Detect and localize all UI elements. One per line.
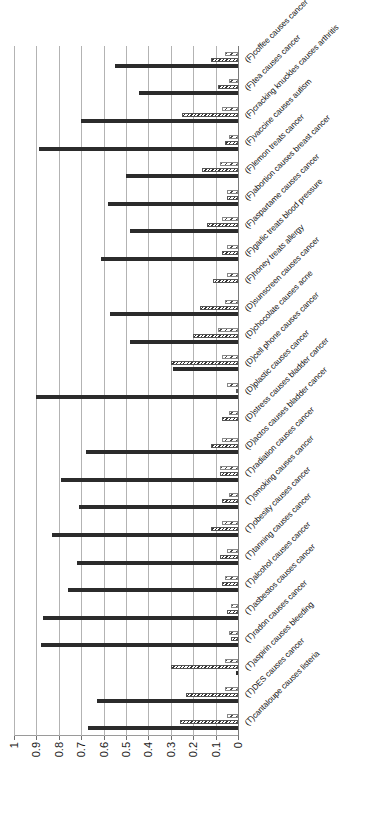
bar-series-light-hatch [220, 162, 238, 166]
bar-series-solid [77, 561, 238, 565]
bar-group [14, 598, 238, 626]
bar-series-solid [81, 119, 238, 123]
y-axis-tick-mark [171, 736, 172, 740]
bar-series-solid [43, 616, 238, 620]
bar-series-solid [79, 505, 238, 509]
bar-series-dense-hatch [180, 720, 238, 724]
y-axis-tick-mark [126, 736, 127, 740]
bar-group [14, 239, 238, 267]
rotated-figure-wrapper: 10.90.80.70.60.50.40.30.20.10(T)cantalou… [0, 0, 376, 832]
bar-series-dense-hatch [186, 693, 238, 697]
bar-series-light-hatch [227, 245, 238, 249]
y-axis-tick-label: 0.4 [142, 742, 154, 757]
bar-group [14, 129, 238, 157]
bar-group [14, 101, 238, 129]
bar-group [14, 543, 238, 571]
y-axis-tick-label: 0.3 [165, 742, 177, 757]
bar-series-dense-hatch [220, 472, 238, 476]
bar-group [14, 322, 238, 350]
bar-series-light-hatch [227, 714, 238, 718]
bar-series-solid [86, 450, 238, 454]
bar-series-dense-hatch [182, 113, 238, 117]
y-axis-tick-label: 0.8 [53, 742, 65, 757]
bar-group [14, 74, 238, 102]
bar-series-dense-hatch [171, 665, 238, 669]
bar-group [14, 626, 238, 654]
bar-series-solid [110, 312, 238, 316]
bar-group [14, 212, 238, 240]
y-axis-tick-mark [238, 736, 239, 740]
bar-series-dense-hatch [213, 279, 238, 283]
bar-series-dense-hatch [200, 306, 238, 310]
bar-series-light-hatch [229, 135, 238, 139]
bar-series-solid [97, 699, 238, 703]
bar-series-light-hatch [225, 659, 238, 663]
y-axis-tick-label: 0.1 [210, 742, 222, 757]
bar-series-dense-hatch [207, 223, 238, 227]
bar-series-dense-hatch [236, 389, 238, 393]
bar-series-dense-hatch [222, 417, 238, 421]
bar-series-light-hatch [227, 190, 238, 194]
bar-group [14, 350, 238, 378]
y-axis-tick-label: 0.9 [30, 742, 42, 757]
bar-series-light-hatch [229, 493, 238, 497]
y-axis-tick-label: 1 [8, 742, 20, 748]
bar-series-solid [236, 671, 238, 675]
bar-series-solid [115, 64, 238, 68]
bar-group [14, 267, 238, 295]
bar-group [14, 377, 238, 405]
bar-series-light-hatch [227, 549, 238, 553]
bar-series-light-hatch [225, 576, 238, 580]
bar-series-light-hatch [225, 52, 238, 56]
bar-series-light-hatch [227, 273, 238, 277]
bar-series-light-hatch [229, 79, 238, 83]
bar-group [14, 156, 238, 184]
y-axis-tick-mark [104, 736, 105, 740]
y-axis-tick-mark [216, 736, 217, 740]
bar-group [14, 570, 238, 598]
bar-series-dense-hatch [222, 251, 238, 255]
bar-group [14, 681, 238, 709]
bar-series-light-hatch [218, 328, 238, 332]
bar-series-solid [88, 726, 238, 730]
y-axis-tick-mark [148, 736, 149, 740]
bar-series-light-hatch [222, 521, 238, 525]
bar-series-solid [173, 367, 238, 371]
bar-group [14, 708, 238, 736]
bar-series-light-hatch [225, 687, 238, 691]
y-axis-tick-mark [59, 736, 60, 740]
y-axis-tick-label: 0 [232, 742, 244, 748]
bar-series-solid [101, 257, 238, 261]
bar-series-solid [52, 533, 238, 537]
bar-series-light-hatch [225, 300, 238, 304]
bar-group [14, 294, 238, 322]
bar-series-dense-hatch [202, 168, 238, 172]
bar-series-dense-hatch [211, 527, 238, 531]
bar-group [14, 405, 238, 433]
bar-series-light-hatch [227, 383, 238, 387]
bar-group [14, 46, 238, 74]
bar-series-solid [108, 202, 238, 206]
bar-series-light-hatch [222, 438, 238, 442]
plot-area: 10.90.80.70.60.50.40.30.20.10(T)cantalou… [14, 46, 238, 736]
y-axis-tick-label: 0.2 [187, 742, 199, 757]
bar-series-dense-hatch [222, 499, 238, 503]
bar-chart-figure: 10.90.80.70.60.50.40.30.20.10(T)cantalou… [0, 0, 376, 832]
bar-group [14, 460, 238, 488]
y-axis-tick-mark [14, 736, 15, 740]
bar-series-solid [41, 643, 238, 647]
bar-series-dense-hatch [231, 637, 238, 641]
bar-series-dense-hatch [211, 58, 238, 62]
bar-series-dense-hatch [227, 196, 238, 200]
bar-series-light-hatch [229, 631, 238, 635]
bar-series-solid [130, 229, 238, 233]
bar-series-dense-hatch [211, 444, 238, 448]
bar-series-light-hatch [231, 604, 238, 608]
bar-series-dense-hatch [220, 555, 238, 559]
bar-series-dense-hatch [171, 361, 238, 365]
y-axis-tick-label: 0.7 [75, 742, 87, 757]
y-axis-tick-label: 0.6 [98, 742, 110, 757]
bar-series-dense-hatch [218, 85, 238, 89]
bar-series-dense-hatch [222, 582, 238, 586]
y-axis-tick-mark [193, 736, 194, 740]
